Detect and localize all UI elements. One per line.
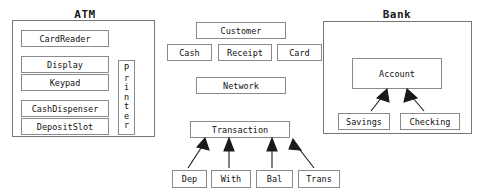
class-depositslot[interactable]: DepositSlot: [21, 118, 109, 135]
class-printer[interactable]: P r i n t e r: [118, 60, 135, 135]
printer-letter-6: r: [124, 121, 129, 131]
class-checking[interactable]: Checking: [400, 113, 460, 130]
diagram-canvas: ATM CardReader Display Keypad CashDispen…: [0, 0, 477, 195]
class-network[interactable]: Network: [196, 77, 286, 94]
class-savings[interactable]: Savings: [338, 113, 390, 130]
class-with[interactable]: With: [211, 170, 251, 188]
class-display[interactable]: Display: [21, 56, 109, 73]
class-bal[interactable]: Bal: [256, 170, 293, 188]
class-dep[interactable]: Dep: [172, 170, 207, 188]
class-card[interactable]: Card: [277, 44, 322, 61]
class-transaction[interactable]: Transaction: [190, 121, 290, 138]
class-cashdispenser[interactable]: CashDispenser: [21, 100, 109, 117]
arrowhead-trans: [289, 139, 301, 150]
class-trans[interactable]: Trans: [298, 170, 340, 188]
class-receipt[interactable]: Receipt: [218, 44, 272, 61]
class-cardreader[interactable]: CardReader: [21, 30, 109, 47]
class-cash[interactable]: Cash: [167, 44, 212, 61]
arrowhead-with: [224, 138, 234, 151]
bank-package-title: Bank: [352, 8, 442, 21]
arrowhead-bal: [267, 138, 277, 151]
class-keypad[interactable]: Keypad: [21, 74, 109, 91]
link-dep-transaction: [188, 145, 203, 168]
class-customer[interactable]: Customer: [196, 22, 286, 39]
class-account[interactable]: Account: [352, 58, 442, 89]
arrowhead-dep: [197, 138, 209, 150]
link-trans-transaction: [297, 146, 314, 168]
